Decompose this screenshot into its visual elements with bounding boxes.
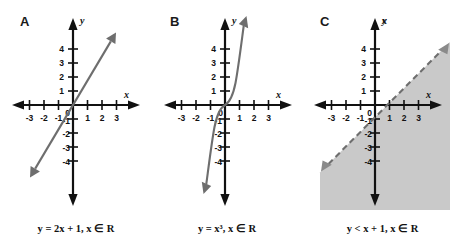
y-tick-label: 4 xyxy=(211,44,216,54)
x-tick-label: -1 xyxy=(357,113,365,123)
x-axis-name-b: x xyxy=(275,89,281,100)
x-tick-label: 1 xyxy=(85,113,90,123)
panel-c-plot: -3 -2 -1 1 2 3 4 3 2 1 -1 -2 -3 -4 0 x y… xyxy=(302,0,463,215)
panel-a-plot: -3 -2 -1 1 2 3 4 3 2 1 -1 -2 -3 -4 0 y x xyxy=(0,0,152,215)
panel-b-caption: y = x³, x ∈ R xyxy=(152,222,302,234)
y-tick-label: -4 xyxy=(62,157,70,167)
panel-c: C xyxy=(302,0,463,248)
y-tick-label: -4 xyxy=(214,157,222,167)
panel-c-caption-text: y < x + 1, x ∈ R xyxy=(347,223,419,234)
panel-b: B xyxy=(152,0,302,248)
y-tick-label: -3 xyxy=(214,143,222,153)
y-tick-label: 4 xyxy=(59,44,64,54)
x-tick-label: 3 xyxy=(266,113,271,123)
y-axis-name-b: y xyxy=(231,15,237,26)
shaded-region-c xyxy=(320,42,450,210)
y-tick-label: 1 xyxy=(59,86,64,96)
three-panel-graph-figure: A xyxy=(0,0,463,248)
y-tick-label: 3 xyxy=(361,58,366,68)
y-tick-label: -3 xyxy=(364,143,372,153)
y-tick-label: -2 xyxy=(214,129,222,139)
panel-b-plot: -3 -2 -1 1 2 3 4 3 2 1 -1 -2 -3 -4 0 y x xyxy=(152,0,302,215)
panel-a-caption: y = 2x + 1, x ∈ R xyxy=(0,222,152,234)
panel-a-caption-text: y = 2x + 1, x ∈ R xyxy=(38,223,115,234)
x-tick-label: -3 xyxy=(26,113,34,123)
x-tick-label: -1 xyxy=(207,113,215,123)
x-tick-label: 3 xyxy=(114,113,119,123)
y-tick-label: 1 xyxy=(361,86,366,96)
y-tick-label: -2 xyxy=(62,129,70,139)
x-tick-label: -3 xyxy=(328,113,336,123)
x-tick-label: 3 xyxy=(416,113,421,123)
y-tick-label: 2 xyxy=(211,72,216,82)
panel-a: A xyxy=(0,0,152,248)
y-tick-label: 3 xyxy=(211,58,216,68)
y-tick-label: 1 xyxy=(211,86,216,96)
x-tick-label: -2 xyxy=(40,113,48,123)
y-tick-label: -3 xyxy=(62,143,70,153)
x-tick-label: 2 xyxy=(252,113,257,123)
panel-b-caption-text: y = x³, x ∈ R xyxy=(198,223,256,234)
y-tick-label: 2 xyxy=(59,72,64,82)
x-tick-label: 2 xyxy=(402,113,407,123)
x-axis-name-c: x xyxy=(425,89,431,100)
x-tick-label: -2 xyxy=(342,113,350,123)
origin-label-c: 0 xyxy=(367,108,372,118)
y-tick-label: -4 xyxy=(364,157,372,167)
x-tick-label: 1 xyxy=(237,113,242,123)
y-axis-name-a: y xyxy=(79,15,85,26)
panel-c-caption: y < x + 1, x ∈ R xyxy=(302,222,463,234)
x-tick-label: -1 xyxy=(55,113,63,123)
x-tick-label: -2 xyxy=(192,113,200,123)
y-tick-label: 4 xyxy=(361,44,366,54)
y-tick-label: -2 xyxy=(364,129,372,139)
x-axis-name-a: x xyxy=(123,89,129,100)
y-tick-label: 3 xyxy=(59,58,64,68)
y-tick-label: 2 xyxy=(361,72,366,82)
y-axis-name-c-real: y xyxy=(381,15,387,26)
x-tick-label: 2 xyxy=(100,113,105,123)
x-tick-label: -3 xyxy=(178,113,186,123)
x-tick-label: 1 xyxy=(387,113,392,123)
